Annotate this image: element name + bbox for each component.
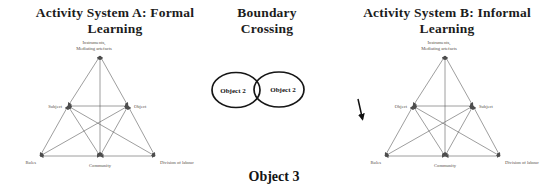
activity-system-a-title-line2: Learning bbox=[25, 21, 205, 37]
division-of-labour-label: Division of labour bbox=[160, 160, 194, 165]
activity-system-a-title: Activity System A: Formal Learning bbox=[25, 5, 205, 37]
down-arrow-icon bbox=[349, 96, 373, 128]
triangle-a-labels: Instruments, Mediating artefacts Subject… bbox=[26, 40, 195, 168]
community-label: Community bbox=[89, 163, 112, 168]
rules-label: Rules bbox=[26, 160, 37, 165]
activity-system-a-title-line1: Activity System A: Formal bbox=[25, 5, 205, 21]
activity-system-b-triangle: Instruments, Mediating artefacts Object … bbox=[350, 36, 540, 186]
figure-canvas: Activity System A: Formal Learning Instr… bbox=[0, 0, 550, 196]
boundary-crossing-title-line1: Boundary bbox=[197, 5, 337, 21]
activity-system-a-triangle: Instruments, Mediating artefacts Subject… bbox=[5, 36, 195, 186]
object2-left-label: Object 2 bbox=[220, 87, 246, 95]
object2-right-label: Object 2 bbox=[270, 86, 296, 94]
community-label: Community bbox=[434, 163, 457, 168]
triangle-b-labels: Instruments, Mediating artefacts Object … bbox=[371, 40, 540, 168]
instruments-label-line2: Mediating artefacts bbox=[76, 46, 112, 51]
activity-system-b-title: Activity System B: Informal Learning bbox=[357, 5, 537, 37]
subject-label: Subject bbox=[48, 104, 63, 109]
division-of-labour-label: Division of labour bbox=[505, 160, 539, 165]
boundary-crossing-title: Boundary Crossing bbox=[197, 5, 337, 37]
activity-system-b-title-line2: Learning bbox=[357, 21, 537, 37]
instruments-label-line2: Mediating artefacts bbox=[421, 46, 457, 51]
object2-ellipses: Object 2 Object 2 bbox=[205, 67, 335, 113]
activity-system-b-title-line1: Activity System B: Informal bbox=[357, 5, 537, 21]
boundary-crossing-title-line2: Crossing bbox=[197, 21, 337, 37]
object-label: Object bbox=[134, 104, 147, 109]
object3-label: Object 3 bbox=[204, 169, 344, 185]
rules-label: Rules bbox=[371, 160, 382, 165]
subject-label: Subject bbox=[479, 104, 494, 109]
object-label: Object bbox=[395, 104, 408, 109]
